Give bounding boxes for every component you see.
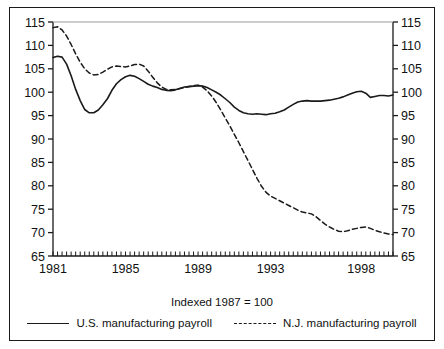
y-tick-label-right: 70	[401, 226, 415, 240]
x-tick-label: 1985	[112, 262, 140, 276]
legend-label-us: U.S. manufacturing payroll	[76, 317, 212, 329]
y-tick-label-left: 110	[25, 39, 45, 53]
y-tick-label-left: 100	[24, 86, 45, 100]
x-tick-label: 1998	[347, 262, 375, 276]
y-tick-label-left: 75	[31, 203, 45, 217]
chart-legend: U.S. manufacturing payroll N.J. manufact…	[10, 317, 434, 329]
chart-frame: 6565707075758080858590909595100100105105…	[9, 7, 435, 341]
y-tick-label-right: 110	[401, 39, 421, 53]
y-tick-label-left: 95	[31, 109, 45, 123]
line-chart: 6565707075758080858590909595100100105105…	[10, 8, 434, 340]
y-tick-label-right: 115	[401, 16, 421, 30]
legend-swatch-dashed-icon	[234, 323, 276, 324]
x-tick-label: 1993	[257, 262, 285, 276]
y-tick-label-left: 90	[31, 133, 45, 147]
y-tick-label-right: 80	[401, 179, 415, 193]
y-tick-label-right: 95	[401, 109, 415, 123]
series-line-nj	[53, 27, 393, 235]
y-tick-label-right: 85	[401, 156, 415, 170]
y-tick-label-right: 75	[401, 203, 415, 217]
legend-label-nj: N.J. manufacturing payroll	[283, 317, 417, 329]
y-tick-label-right: 65	[401, 250, 415, 264]
y-tick-label-left: 105	[24, 62, 45, 76]
chart-caption: Indexed 1987 = 100	[10, 296, 434, 308]
y-tick-label-left: 70	[31, 226, 45, 240]
y-tick-label-right: 90	[401, 133, 415, 147]
y-tick-label-left: 80	[31, 179, 45, 193]
x-tick-label: 1989	[184, 262, 212, 276]
x-tick-label: 1981	[39, 262, 67, 276]
legend-swatch-solid-icon	[27, 323, 69, 324]
y-tick-label-left: 85	[31, 156, 45, 170]
y-tick-label-left: 115	[25, 16, 45, 30]
legend-item-us[interactable]: U.S. manufacturing payroll	[27, 317, 212, 329]
y-tick-label-right: 105	[401, 62, 422, 76]
legend-item-nj[interactable]: N.J. manufacturing payroll	[234, 317, 417, 329]
series-line-us	[53, 56, 393, 115]
figure-container: 6565707075758080858590909595100100105105…	[0, 0, 444, 349]
y-tick-label-right: 100	[401, 86, 422, 100]
